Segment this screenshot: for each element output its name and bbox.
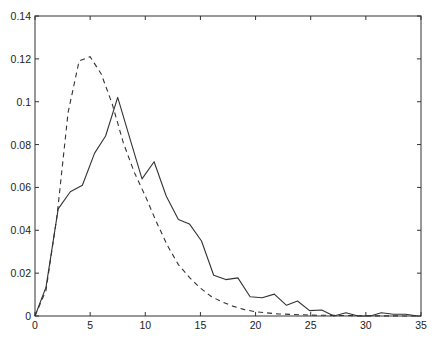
y-tick-label: 0.1 <box>16 96 31 108</box>
y-tick-label: 0 <box>25 310 31 322</box>
x-tick-label: 0 <box>32 319 38 331</box>
line-chart: 0510152025303500.020.040.060.080.10.120.… <box>0 0 436 339</box>
x-tick-label: 25 <box>305 319 317 331</box>
y-tick-label: 0.06 <box>11 181 32 193</box>
y-tick-label: 0.14 <box>11 10 32 22</box>
x-tick-label: 35 <box>415 319 427 331</box>
x-tick-label: 20 <box>250 319 262 331</box>
x-tick-label: 5 <box>87 319 93 331</box>
series-line-empirical <box>35 97 418 316</box>
series-line-model <box>35 57 421 316</box>
x-tick-label: 10 <box>139 319 151 331</box>
x-tick-label: 30 <box>360 319 372 331</box>
y-tick-label: 0.04 <box>11 224 32 236</box>
y-tick-label: 0.08 <box>11 139 32 151</box>
y-tick-label: 0.02 <box>11 267 32 279</box>
x-tick-label: 15 <box>195 319 207 331</box>
y-tick-label: 0.12 <box>11 53 32 65</box>
plot-frame <box>35 16 421 316</box>
